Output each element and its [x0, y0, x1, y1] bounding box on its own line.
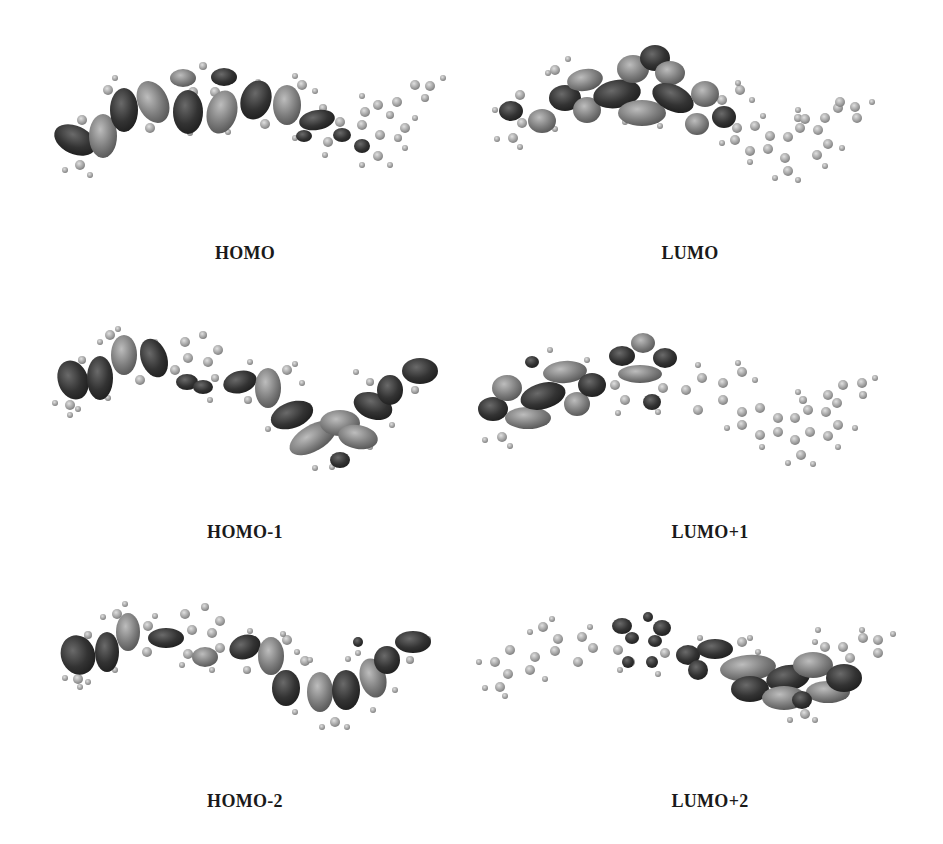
panel-homo: HOMO: [40, 40, 460, 280]
lumo-plus-1-orbital-image: [470, 320, 900, 480]
caption-lumo-plus-1: LUMO+1: [610, 522, 810, 543]
caption-lumo: LUMO: [590, 243, 790, 264]
caption-lumo-plus-2: LUMO+2: [610, 791, 810, 812]
panel-lumo-plus-1: LUMO+1: [470, 320, 900, 560]
caption-homo-2: HOMO-2: [145, 791, 345, 812]
homo-orbital-image: [40, 40, 460, 200]
panel-homo-2: HOMO-2: [40, 590, 460, 830]
caption-homo: HOMO: [145, 243, 345, 264]
panel-homo-1: HOMO-1: [40, 320, 460, 560]
panel-lumo: LUMO: [480, 40, 900, 280]
lumo-orbital-image: [480, 40, 900, 200]
panel-lumo-plus-2: LUMO+2: [470, 590, 900, 830]
homo-2-orbital-image: [40, 590, 460, 750]
homo-1-orbital-image: [40, 320, 460, 480]
caption-homo-1: HOMO-1: [145, 522, 345, 543]
lumo-plus-2-orbital-image: [470, 590, 900, 750]
